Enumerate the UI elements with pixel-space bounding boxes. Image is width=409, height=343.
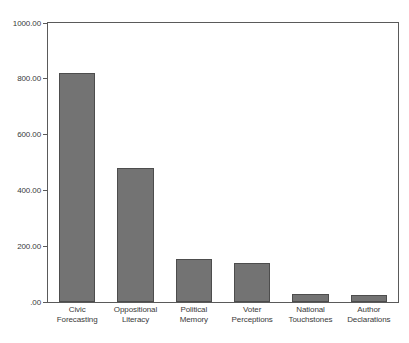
x-axis-label: NationalTouchstones	[281, 305, 339, 325]
x-axis-label-line: Oppositional	[106, 305, 164, 315]
y-axis-tick-label: 200.00	[17, 242, 43, 251]
x-axis-label: OppositionalLiteracy	[106, 305, 164, 325]
bar[interactable]	[292, 294, 328, 302]
x-axis-label-line: National	[281, 305, 339, 315]
y-axis-tick: 200.00	[17, 241, 47, 252]
y-axis-tick-mark	[43, 23, 47, 24]
x-axis-label-line: Voter	[223, 305, 281, 315]
y-axis-tick-mark	[43, 134, 47, 135]
y-axis-tick-label: 800.00	[17, 74, 43, 83]
bar[interactable]	[351, 295, 387, 302]
x-axis-label-line: Author	[340, 305, 398, 315]
x-axis-label: AuthorDeclarations	[340, 305, 398, 325]
y-axis-tick: .00	[30, 297, 47, 308]
x-axis-label-line: Forecasting	[48, 315, 106, 325]
x-axis-label-line: Civic	[48, 305, 106, 315]
y-axis-tick: 1000.00	[13, 18, 47, 29]
y-axis-tick-mark	[43, 246, 47, 247]
x-axis-label: PoliticalMemory	[165, 305, 223, 325]
bar[interactable]	[59, 73, 95, 302]
bar-chart: 1000.00800.00600.00400.00200.00.00 Civic…	[0, 0, 409, 343]
bar[interactable]	[117, 168, 153, 302]
y-axis-tick-label: 400.00	[17, 186, 43, 195]
x-axis-label-line: Perceptions	[223, 315, 281, 325]
y-axis-tick: 600.00	[17, 129, 47, 140]
x-axis-label: CivicForecasting	[48, 305, 106, 325]
y-axis-tick-label: .00	[30, 298, 43, 307]
x-axis-label: VoterPerceptions	[223, 305, 281, 325]
bar-slot	[223, 23, 281, 302]
bar-slot	[48, 23, 106, 302]
bar[interactable]	[176, 259, 212, 302]
bar-slot	[106, 23, 164, 302]
y-axis-tick-mark	[43, 302, 47, 303]
x-axis-label-line: Memory	[165, 315, 223, 325]
y-axis: 1000.00800.00600.00400.00200.00.00	[0, 0, 47, 343]
x-axis-label-line: Literacy	[106, 315, 164, 325]
bar-slot	[340, 23, 398, 302]
x-axis-label-line: Political	[165, 305, 223, 315]
x-axis-label-line: Touchstones	[281, 315, 339, 325]
y-axis-tick-label: 600.00	[17, 130, 43, 139]
bar-slot	[165, 23, 223, 302]
x-axis-label-line: Declarations	[340, 315, 398, 325]
y-axis-tick: 400.00	[17, 185, 47, 196]
y-axis-tick-label: 1000.00	[13, 19, 43, 28]
x-axis-labels: CivicForecastingOppositionalLiteracyPoli…	[48, 305, 398, 343]
y-axis-tick: 800.00	[17, 73, 47, 84]
bar[interactable]	[234, 263, 270, 302]
y-axis-tick-mark	[43, 78, 47, 79]
bar-slot	[281, 23, 339, 302]
bars-layer	[48, 23, 398, 302]
y-axis-tick-mark	[43, 190, 47, 191]
